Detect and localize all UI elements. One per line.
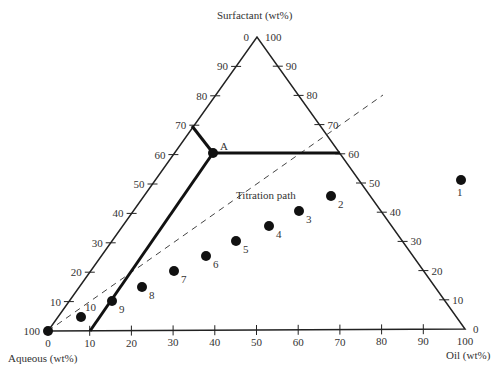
tick-label-surfactant-left: 10: [50, 296, 62, 308]
titration-point: [294, 206, 304, 216]
tick-label-surfactant-right: 40: [390, 206, 402, 218]
titration-point-label: 1: [457, 186, 463, 198]
axis-title-oil: Oil (wt%): [446, 349, 491, 362]
tick-label-oil: 80: [376, 335, 388, 347]
tick-label-surfactant-left: 0: [244, 31, 250, 43]
titration-point: [231, 236, 241, 246]
aqueous-vertex-point: [43, 326, 53, 336]
point-a: [208, 148, 218, 158]
axis-title-aqueous: Aqueous (wt%): [8, 352, 78, 365]
tick-label-surfactant-left: 60: [154, 149, 166, 161]
tick-label-surfactant-right: 90: [286, 60, 298, 72]
tick-label-surfactant-left: 20: [71, 266, 83, 278]
tick-label-surfactant-right: 20: [431, 265, 443, 277]
titration-point-label: 4: [276, 228, 282, 240]
tick-label-oil: 30: [168, 336, 180, 348]
titration-point: [169, 266, 179, 276]
tick-label-oil: 20: [126, 337, 138, 349]
titration-point-label: 8: [149, 289, 155, 301]
tick-label-oil: 50: [251, 336, 263, 348]
titration-point-label: 5: [243, 243, 249, 255]
tick-label-surfactant-right: 70: [327, 119, 339, 131]
tick-label-surfactant-left: 100: [24, 325, 41, 337]
tick-label-surfactant-right: 100: [265, 31, 282, 43]
titration-point: [107, 296, 117, 306]
titration-point: [201, 251, 211, 261]
tick-label-surfactant-right: 0: [473, 323, 479, 335]
titration-path-label: Titration path: [236, 189, 296, 201]
titration-point-label: 2: [338, 198, 344, 210]
tick-label-surfactant-left: 90: [217, 60, 229, 72]
titration-point-label: 9: [119, 303, 125, 315]
tick-label-oil: 40: [209, 336, 221, 348]
tick-label-surfactant-right: 50: [369, 177, 381, 189]
tick-label-surfactant-left: 80: [196, 90, 208, 102]
titration-point-label: 10: [85, 301, 97, 313]
axis-title-surfactant: Surfactant (wt%): [217, 9, 293, 22]
titration-point: [456, 175, 466, 185]
titration-point: [264, 221, 274, 231]
tick-label-oil: 90: [418, 335, 430, 347]
tick-label-oil: 60: [293, 336, 305, 348]
titration-point: [326, 191, 336, 201]
titration-point-label: 3: [306, 213, 312, 225]
tick-label-surfactant-right: 60: [348, 148, 360, 160]
titration-point: [137, 282, 147, 292]
tick-label-oil: 10: [84, 337, 96, 349]
tick-label-oil: 70: [334, 336, 346, 348]
tick-label-surfactant-right: 30: [411, 235, 423, 247]
tick-label-surfactant-left: 70: [175, 119, 187, 131]
point-a-label: A: [220, 140, 228, 152]
titration-point-label: 6: [213, 258, 219, 270]
tick-label-surfactant-right: 10: [452, 294, 464, 306]
tick-label-surfactant-left: 40: [113, 207, 125, 219]
titration-path-line: [48, 95, 383, 331]
tick-label-surfactant-left: 50: [134, 178, 146, 190]
tick-label-surfactant-right: 80: [307, 89, 319, 101]
titration-point-label: 7: [181, 273, 187, 285]
tick-label-oil: 100: [457, 335, 474, 347]
titration-point: [76, 312, 86, 322]
boundary-line-30: [192, 126, 213, 153]
tick-label-surfactant-left: 30: [92, 237, 104, 249]
ternary-diagram: 0100010101020202030303040404050505060606…: [0, 0, 501, 385]
tick-label-oil: 0: [45, 337, 51, 349]
